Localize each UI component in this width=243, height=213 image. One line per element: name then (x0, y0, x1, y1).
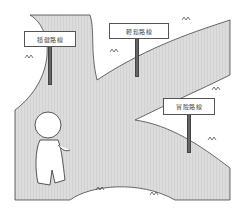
sign-label: 輕鬆路線 (126, 27, 152, 36)
sign-post-left (48, 45, 52, 85)
sign-post-right (187, 113, 191, 153)
sign-label: 冒險路線 (176, 102, 202, 111)
sign-label: 穩健路線 (37, 35, 63, 44)
sign-post-middle (135, 37, 139, 77)
sign-steady-route: 穩健路線 (24, 31, 76, 47)
sign-easy-route: 輕鬆路線 (109, 23, 169, 39)
sign-adventure-route: 冒險路線 (163, 98, 215, 115)
